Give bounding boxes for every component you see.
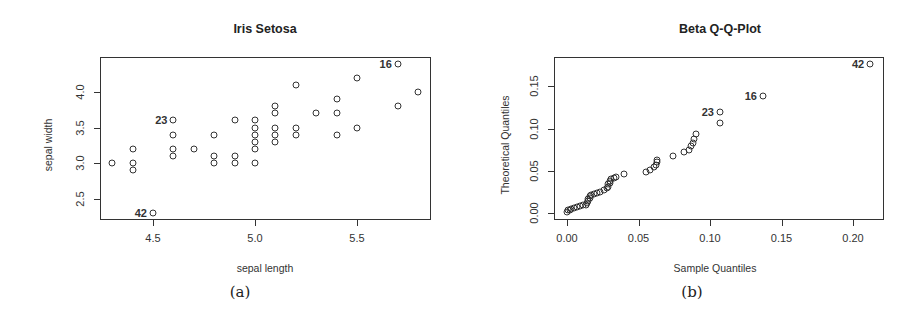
data-point [394,103,401,110]
chart-title-left: Iris Setosa [215,22,315,36]
data-point [272,138,279,145]
data-point [313,110,320,117]
data-point [759,93,766,100]
point-annotation: 23 [702,106,714,118]
y-tick-label: 2.5 [74,191,86,206]
data-point [170,131,177,138]
y-tick [548,129,554,130]
data-point [252,138,259,145]
data-point [692,131,699,138]
data-point [170,117,177,124]
y-tick-label: 4.0 [74,84,86,99]
y-tick-label: 3.0 [74,155,86,170]
x-tick-label: 0.05 [628,232,649,244]
y-tick-label: 3.5 [74,120,86,135]
data-point [272,103,279,110]
y-tick [94,199,100,200]
data-point [272,131,279,138]
x-tick-label: 0.10 [699,232,720,244]
data-point [717,119,724,126]
y-tick [548,86,554,87]
plot-area-right [554,57,884,220]
data-point [272,124,279,131]
data-point [333,110,340,117]
data-point [211,152,218,159]
data-point [252,124,259,131]
y-tick [94,128,100,129]
caption-b: (b) [681,283,702,301]
data-point [231,117,238,124]
data-point [190,145,197,152]
data-point [669,152,676,159]
y-axis-label-right: Theoretical Quantiles [499,95,511,194]
x-tick [255,220,256,226]
data-point [109,160,116,167]
x-tick-label: 4.5 [145,232,160,244]
y-tick [548,171,554,172]
point-annotation: 23 [155,114,167,126]
data-point [612,173,619,180]
data-point [867,61,874,68]
y-tick-label: 0.05 [528,160,540,181]
y-tick-label: 0.00 [528,202,540,223]
plot-area-left [100,57,431,220]
y-tick-label: 0.10 [528,118,540,139]
point-annotation: 16 [380,58,392,70]
x-tick-label: 0.00 [556,232,577,244]
x-tick [357,220,358,226]
data-point [231,152,238,159]
data-point [333,96,340,103]
data-point [354,74,361,81]
x-tick-label: 0.20 [842,232,863,244]
point-annotation: 42 [852,58,864,70]
data-point [415,89,422,96]
data-point [129,167,136,174]
y-tick [94,163,100,164]
data-point [211,160,218,167]
data-point [231,160,238,167]
data-point [292,131,299,138]
data-point [170,145,177,152]
data-point [211,131,218,138]
x-tick [853,220,854,226]
x-tick [710,220,711,226]
data-point [717,108,724,115]
data-point [150,209,157,216]
data-point [272,110,279,117]
data-point [129,160,136,167]
y-axis-label-left: sepal width [42,119,54,172]
point-annotation: 42 [135,207,147,219]
data-point [252,117,259,124]
x-tick [782,220,783,226]
x-tick-label: 5.5 [349,232,364,244]
caption-a: (a) [230,283,251,301]
y-tick [94,92,100,93]
y-tick [548,213,554,214]
x-tick [153,220,154,226]
data-point [252,131,259,138]
x-tick [567,220,568,226]
x-axis-label-left: sepal length [237,262,294,274]
chart-title-right: Beta Q-Q-Plot [660,22,780,36]
point-annotation: 16 [745,90,757,102]
data-point [252,145,259,152]
data-point [654,156,661,163]
x-axis-label-right: Sample Quantiles [674,262,757,274]
data-point [333,131,340,138]
data-point [621,171,628,178]
x-tick [639,220,640,226]
x-tick-label: 5.0 [247,232,262,244]
data-point [394,60,401,67]
x-tick-label: 0.15 [771,232,792,244]
data-point [170,152,177,159]
data-point [129,145,136,152]
y-tick-label: 0.15 [528,76,540,97]
data-point [292,124,299,131]
data-point [354,124,361,131]
data-point [252,160,259,167]
data-point [292,81,299,88]
